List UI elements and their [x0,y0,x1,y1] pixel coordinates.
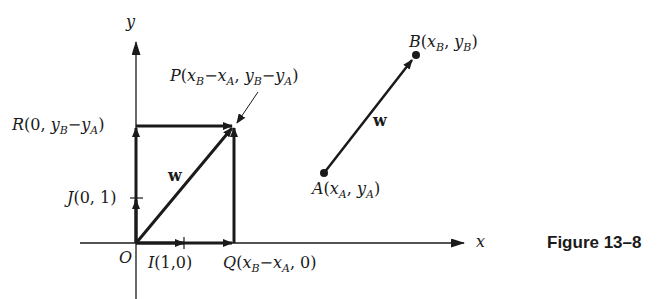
label-b-name: B [409,32,421,51]
label-r: R(0, yB−yA) [12,117,104,133]
label-r-name: R [12,115,24,134]
label-p: P(xB−xA, yB−yA) [170,68,299,84]
label-q-name: Q [223,253,236,272]
y-axis-label: y [126,14,135,30]
vector-w-ab [324,60,412,173]
label-a: A(xA, yA) [312,181,380,197]
point-b [412,51,420,59]
x-axis-label: x [476,234,485,250]
figure-caption: Figure 13–8 [547,233,642,253]
label-a-name: A [312,179,324,198]
pointer-to-p [237,92,258,123]
label-j-name: J [67,188,73,207]
label-q: Q(xB−xA, 0) [223,255,316,271]
label-b: B(xB, yB) [409,34,478,50]
origin-label: O [119,250,132,266]
vector-w-label-ab: w [373,113,387,129]
label-p-name: P [170,66,181,85]
vector-w-origin [137,128,232,242]
point-a [320,169,328,177]
label-i-name: I [148,253,154,272]
vector-diagram [0,0,664,299]
label-j: J(0, 1) [67,190,116,206]
vector-w-label-origin: w [168,168,182,184]
label-i: I(1,0) [148,255,192,271]
